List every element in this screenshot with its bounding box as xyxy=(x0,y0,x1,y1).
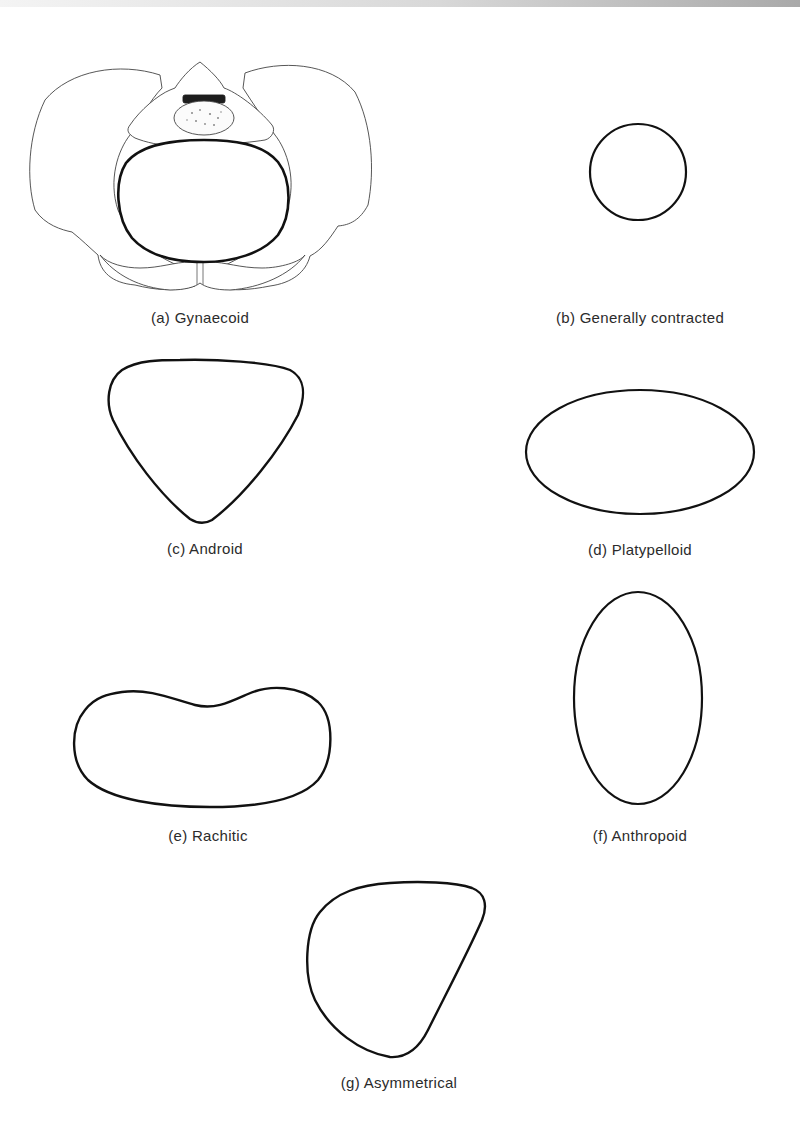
caption-b-generally-contracted: (b) Generally contracted xyxy=(556,309,724,326)
panel-e-rachitic-shape xyxy=(74,688,330,807)
panel-g-asymmetrical-shape xyxy=(307,882,485,1057)
caption-a-gynaecoid: (a) Gynaecoid xyxy=(151,309,249,326)
panel-a-gynaecoid-pelvis xyxy=(30,62,372,290)
panel-c-android-shape xyxy=(109,360,303,523)
panel-f-anthropoid-shape xyxy=(574,592,702,804)
caption-g-asymmetrical: (g) Asymmetrical xyxy=(341,1074,457,1091)
vertebral-body xyxy=(174,101,234,135)
panel-b-generally-contracted-shape xyxy=(590,124,686,220)
caption-d-platypelloid: (d) Platypelloid xyxy=(588,541,692,558)
gynaecoid-inlet-outline xyxy=(118,140,288,262)
caption-f-anthropoid: (f) Anthropoid xyxy=(593,827,687,844)
panel-d-platypelloid-shape xyxy=(526,390,754,514)
caption-c-android: (c) Android xyxy=(167,540,243,557)
pelvic-inlet-shapes-figure xyxy=(0,0,800,1133)
caption-e-rachitic: (e) Rachitic xyxy=(168,827,247,844)
